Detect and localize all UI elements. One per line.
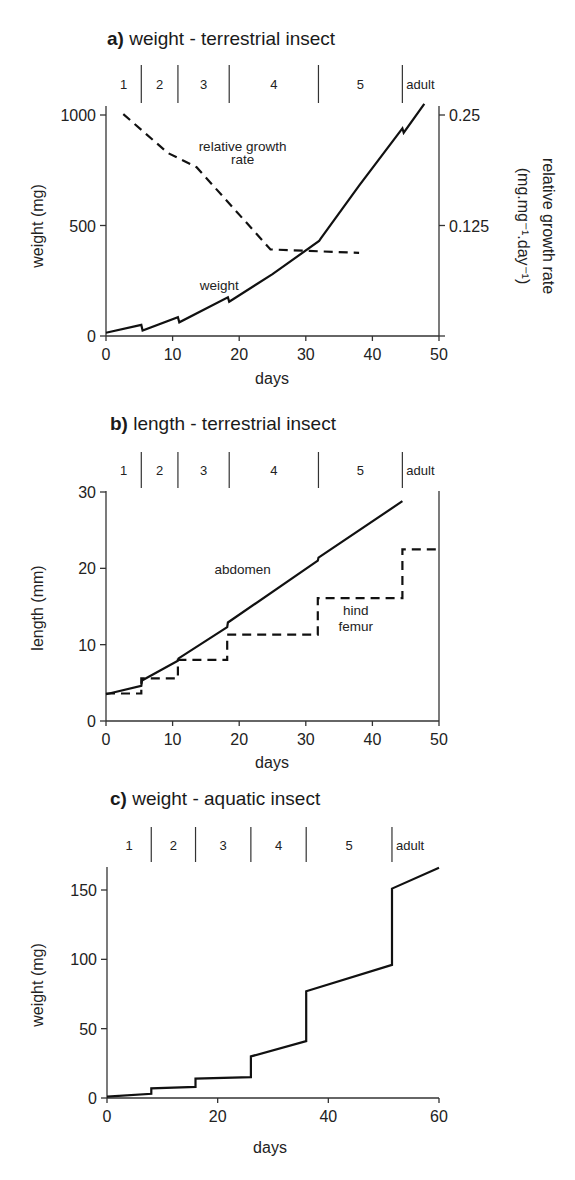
y-right-axis-units-a: (mg.mg⁻¹.day⁻¹) <box>515 168 532 284</box>
stage-label: 2 <box>156 463 163 478</box>
chart-panel-b: b) length - terrestrial insect 12345adul… <box>29 413 448 771</box>
y-tick-label: 100 <box>70 951 97 968</box>
y-tick-label: 10 <box>78 637 96 654</box>
stage-label: adult <box>406 463 435 478</box>
plot-area-b: abdomenhindfemur <box>106 501 439 694</box>
y-tick-label: 150 <box>70 882 97 899</box>
axes-b: 010203040500102030 <box>78 484 448 748</box>
y-tick-label: 1000 <box>60 107 96 124</box>
x-tick-label: 20 <box>230 731 248 748</box>
stage-label: 4 <box>270 463 277 478</box>
annotation-label: hind <box>343 603 369 618</box>
stage-label: 3 <box>200 77 207 92</box>
stage-label: 4 <box>270 77 277 92</box>
y-tick-label: 50 <box>79 1021 97 1038</box>
stage-bar-b: 12345adult <box>120 452 435 488</box>
figure: a) weight - terrestrial insect 12345adul… <box>0 0 575 1180</box>
y-tick-label: 500 <box>69 218 96 235</box>
annotation-label: rate <box>231 152 254 167</box>
x-tick-label: 60 <box>430 1108 448 1125</box>
stage-bar-a: 12345adult <box>120 65 435 103</box>
annotation-label: weight <box>199 278 239 293</box>
y-right-tick-label: 0.125 <box>449 218 489 235</box>
chart-panel-c: c) weight - aquatic insect 12345adult 02… <box>29 788 448 1156</box>
x-tick-label: 40 <box>319 1108 337 1125</box>
series-weight <box>107 868 439 1097</box>
y-axis-label-a: weight (mg) <box>29 184 46 269</box>
x-tick-label: 10 <box>164 731 182 748</box>
x-tick-label: 40 <box>364 731 382 748</box>
stage-label: 5 <box>357 463 364 478</box>
annotation-label: abdomen <box>214 562 270 577</box>
stage-label: 5 <box>345 838 352 853</box>
annotation-label: femur <box>338 619 373 634</box>
chart-panel-a: a) weight - terrestrial insect 12345adul… <box>29 28 557 387</box>
plot-area-c <box>107 868 439 1097</box>
series-weight <box>106 104 424 333</box>
chart-title-c: c) weight - aquatic insect <box>110 788 321 809</box>
stage-label: adult <box>396 838 425 853</box>
x-tick-label: 50 <box>430 346 448 363</box>
x-tick-label: 30 <box>297 731 315 748</box>
y-tick-label: 0 <box>88 1090 97 1107</box>
stage-label: 3 <box>220 838 227 853</box>
x-axis-label-a: days <box>255 370 289 387</box>
x-tick-label: 40 <box>364 346 382 363</box>
stage-label: adult <box>406 77 435 92</box>
x-tick-label: 10 <box>164 346 182 363</box>
stage-label: 1 <box>120 463 127 478</box>
x-axis-label-b: days <box>255 754 289 771</box>
x-tick-label: 0 <box>102 731 111 748</box>
stage-label: 3 <box>200 463 207 478</box>
x-tick-label: 20 <box>230 346 248 363</box>
y-axis-label-b: length (mm) <box>29 565 46 650</box>
x-tick-label: 50 <box>430 731 448 748</box>
y-right-axis-label-a: relative growth rate <box>540 158 557 294</box>
y-tick-label: 30 <box>78 484 96 501</box>
series-relative-growth-rate <box>123 114 359 253</box>
stage-label: 5 <box>357 77 364 92</box>
y-axis-label-c: weight (mg) <box>29 943 46 1028</box>
stage-label: 2 <box>156 77 163 92</box>
x-tick-label: 0 <box>102 346 111 363</box>
stage-label: 2 <box>170 838 177 853</box>
y-tick-label: 0 <box>87 328 96 345</box>
x-tick-label: 20 <box>209 1108 227 1125</box>
chart-title-b: b) length - terrestrial insect <box>110 413 337 434</box>
x-tick-label: 30 <box>297 346 315 363</box>
y-tick-label: 0 <box>87 713 96 730</box>
stage-label: 1 <box>120 77 127 92</box>
y-tick-label: 20 <box>78 560 96 577</box>
x-tick-label: 0 <box>103 1108 112 1125</box>
stage-label: 1 <box>126 838 133 853</box>
stage-label: 4 <box>275 838 282 853</box>
chart-title-a: a) weight - terrestrial insect <box>107 28 336 49</box>
x-axis-label-c: days <box>253 1139 287 1156</box>
stage-bar-c: 12345adult <box>126 827 425 862</box>
plot-area-a: relative growthrateweight <box>106 104 424 333</box>
y-right-tick-label: 0.25 <box>449 107 480 124</box>
